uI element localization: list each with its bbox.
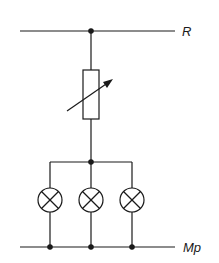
- bottom-junction-dot: [89, 245, 93, 249]
- bottom-junction-dot: [48, 245, 52, 249]
- circuit-diagram: R Mp: [0, 0, 219, 263]
- lamp-1: [38, 162, 62, 247]
- lamp-2: [79, 162, 103, 247]
- rheostat-arrow-shaft: [67, 82, 109, 111]
- top-rail-label: R: [182, 24, 191, 39]
- rheostat-arrow-head-icon: [103, 79, 113, 88]
- bottom-junction-dot: [130, 245, 134, 249]
- lamp-3: [120, 162, 144, 247]
- bottom-rail-label: Mp: [183, 240, 201, 255]
